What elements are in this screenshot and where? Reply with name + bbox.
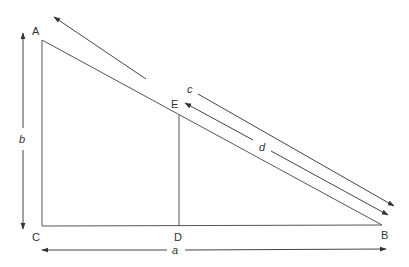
side-cb xyxy=(42,225,382,226)
side-ab-hypotenuse xyxy=(42,40,382,225)
dimension-label-b: b xyxy=(19,133,25,145)
dimension-label-d: d xyxy=(259,141,266,153)
dimension-label-c: c xyxy=(187,83,193,95)
dimension-a-right-arrow xyxy=(185,249,386,250)
dimension-d-lower-arrow xyxy=(271,151,388,215)
point-label-e: E xyxy=(171,98,178,110)
dimension-d-upper-arrow xyxy=(185,103,253,140)
triangle-diagram: A C D E B b a c d xyxy=(0,0,409,267)
dimension-label-a: a xyxy=(172,244,178,256)
triangle xyxy=(42,40,382,226)
point-label-d: D xyxy=(174,231,182,243)
dimension-c-upper-arrow xyxy=(54,17,146,79)
point-label-b: B xyxy=(381,229,388,241)
point-label-c: C xyxy=(32,231,40,243)
dimension-arrows xyxy=(23,17,394,250)
dimension-c-lower-arrow xyxy=(198,94,394,206)
point-label-a: A xyxy=(32,25,40,37)
